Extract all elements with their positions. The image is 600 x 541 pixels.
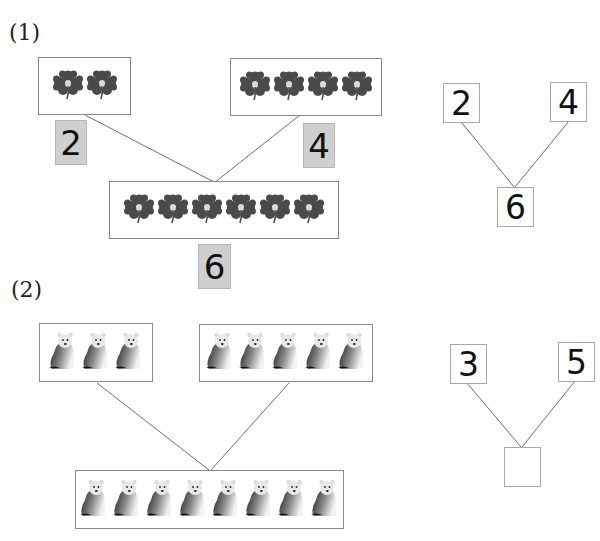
p2-total-group-box [75,470,344,529]
bear-row [204,331,369,375]
p1-left-connector [85,115,216,183]
clover-icon [86,68,118,104]
polar-bear-icon [304,331,334,375]
polar-bear-icon [271,331,301,375]
clover-icon [341,69,373,105]
bear-row [78,478,342,522]
p1-right-count-tag: 4 [303,123,335,168]
p2-left-connector [97,383,209,470]
polar-bear-icon [244,478,274,522]
polar-bear-icon [178,478,208,522]
p2-bond-left-connector [467,383,521,447]
problem-2-label: (2) [11,277,42,302]
clover-icon [123,192,155,228]
clover-icon [225,192,257,228]
polar-bear-icon [211,478,241,522]
p1-total-group-box [109,181,339,239]
p1-total-count-tag: 6 [198,244,231,289]
polar-bear-icon [79,478,109,522]
polar-bear-icon [114,331,144,375]
polar-bear-icon [48,331,78,375]
p2-bond-left-box: 3 [450,344,487,384]
p2-left-group-box [39,323,153,382]
p1-left-group-box [38,57,131,115]
clover-icon [52,68,84,104]
polar-bear-icon [112,478,142,522]
p2-right-group-box [199,324,373,382]
p1-right-connector [214,115,300,183]
clover-row [238,69,374,105]
polar-bear-icon [238,331,268,375]
polar-bear-icon [277,478,307,522]
clover-icon [293,192,325,228]
p1-right-group-box [230,58,382,116]
p2-right-connector [211,383,289,470]
p1-left-count-tag: 2 [55,120,87,165]
p1-bond-left-box: 2 [443,83,480,123]
p2-bond-right-connector [522,381,575,447]
problem-1-label: (1) [9,20,40,45]
clover-icon [157,192,189,228]
bear-row [47,331,146,375]
p2-bond-total-answer-box[interactable] [504,447,541,487]
clover-icon [273,69,305,105]
polar-bear-icon [205,331,235,375]
clover-icon [239,69,271,105]
polar-bear-icon [145,478,175,522]
p1-bond-left-connector [462,123,514,187]
polar-bear-icon [310,478,340,522]
clover-row [122,192,326,228]
p1-bond-right-box: 4 [550,82,587,122]
polar-bear-icon [337,331,367,375]
clover-row [51,68,119,104]
p1-bond-total-box: 6 [497,187,534,227]
clover-icon [191,192,223,228]
p1-bond-right-connector [515,121,569,187]
polar-bear-icon [81,331,111,375]
p2-bond-right-box: 5 [558,342,595,382]
clover-icon [307,69,339,105]
clover-icon [259,192,291,228]
